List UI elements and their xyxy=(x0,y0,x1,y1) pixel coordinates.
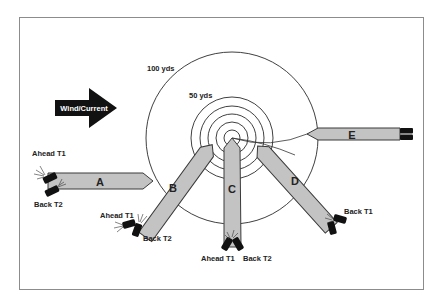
vessel-d-thruster-t1-label: Back T1 xyxy=(344,207,373,216)
vessel-c-thruster-t1-label: Ahead T1 xyxy=(201,254,235,263)
wind-current-label: Wind/Current xyxy=(60,104,108,113)
vessel-a-thruster-t2-label: Back T2 xyxy=(34,200,63,209)
vessel-d-label: D xyxy=(291,175,299,187)
vessel-c-label: C xyxy=(228,183,236,195)
vessel-e-label: E xyxy=(348,129,355,141)
diagram-canvas: Wind/Current 100 yds 50 yds E A Ahead T1… xyxy=(0,0,443,300)
diagram-frame xyxy=(20,18,424,290)
ring-50-yds-label: 50 yds xyxy=(189,91,212,100)
vessel-a-label: A xyxy=(96,176,104,188)
thruster-e-2 xyxy=(400,135,413,141)
vessel-b-thruster-t2-label: Back T2 xyxy=(143,234,172,243)
vessel-c-thruster-t2-label: Back T2 xyxy=(243,254,272,263)
thruster-e-1 xyxy=(400,128,413,134)
vessel-b-thruster-t1-label: Ahead T1 xyxy=(100,211,134,220)
vessel-b-label: B xyxy=(169,182,177,194)
vessel-e: E xyxy=(307,128,413,141)
ring-100-yds-label: 100 yds xyxy=(147,64,175,73)
vessel-a-thruster-t1-label: Ahead T1 xyxy=(32,149,66,158)
